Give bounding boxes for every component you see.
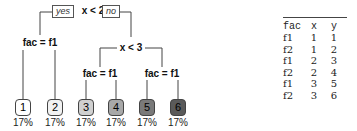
decision-tree: yes x < 2 no fac = f1 x < 3 fac = f1 fac… bbox=[0, 0, 210, 131]
leaf-pct-6: 17% bbox=[168, 117, 188, 128]
table-row: f212 bbox=[283, 44, 347, 56]
cell-y: 1 bbox=[327, 32, 347, 44]
table-row: f111 bbox=[283, 32, 347, 44]
cell-y: 4 bbox=[327, 67, 347, 79]
table-header-row: fac x y bbox=[283, 18, 347, 33]
right-right-split-label: fac = f1 bbox=[145, 68, 180, 79]
leaf-pct-3: 17% bbox=[76, 117, 96, 128]
cell-x: 3 bbox=[307, 78, 327, 90]
cell-x: 1 bbox=[307, 44, 327, 56]
left-split-label: fac = f1 bbox=[23, 37, 58, 48]
table-row: f236 bbox=[283, 90, 347, 102]
leaf-pct-1: 17% bbox=[13, 117, 33, 128]
leaf-pct-5: 17% bbox=[137, 117, 157, 128]
yes-branch-tag: yes bbox=[52, 5, 74, 18]
data-table: fac x y f111 f212 f123 f224 f135 f236 bbox=[283, 17, 347, 101]
table-row: f123 bbox=[283, 55, 347, 67]
cell-y: 5 bbox=[327, 78, 347, 90]
cell-x: 2 bbox=[307, 67, 327, 79]
root-split-label: x < 2 bbox=[82, 5, 105, 16]
cell-fac: f2 bbox=[283, 90, 307, 102]
cell-x: 2 bbox=[307, 55, 327, 67]
no-branch-tag: no bbox=[102, 5, 120, 18]
right-split-label: x < 3 bbox=[120, 42, 143, 53]
right-left-split-label: fac = f1 bbox=[83, 68, 118, 79]
cell-fac: f1 bbox=[283, 78, 307, 90]
table-row: f224 bbox=[283, 67, 347, 79]
cell-y: 3 bbox=[327, 55, 347, 67]
cell-fac: f1 bbox=[283, 32, 307, 44]
leaf-node-3: 3 bbox=[78, 99, 94, 116]
cell-fac: f2 bbox=[283, 44, 307, 56]
cell-y: 6 bbox=[327, 90, 347, 102]
leaf-node-1: 1 bbox=[15, 99, 31, 116]
cell-x: 3 bbox=[307, 90, 327, 102]
leaf-node-6: 6 bbox=[170, 99, 186, 116]
leaf-pct-4: 17% bbox=[106, 117, 126, 128]
column-header-fac: fac bbox=[283, 18, 307, 33]
cell-x: 1 bbox=[307, 32, 327, 44]
leaf-node-4: 4 bbox=[108, 99, 124, 116]
cell-y: 2 bbox=[327, 44, 347, 56]
cell-fac: f2 bbox=[283, 67, 307, 79]
leaf-node-2: 2 bbox=[47, 99, 63, 116]
table-row: f135 bbox=[283, 78, 347, 90]
leaf-pct-2: 17% bbox=[45, 117, 65, 128]
column-header-y: y bbox=[327, 18, 347, 33]
column-header-x: x bbox=[307, 18, 327, 33]
leaf-node-5: 5 bbox=[139, 99, 155, 116]
cell-fac: f1 bbox=[283, 55, 307, 67]
